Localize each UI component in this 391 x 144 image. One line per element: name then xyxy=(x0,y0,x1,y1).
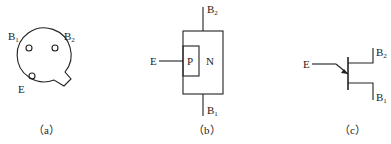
label-e: E xyxy=(303,58,310,70)
pin-b2-hole xyxy=(52,45,58,51)
b2-lead xyxy=(348,48,373,63)
figure-a-package: B1 B2 E （a） xyxy=(8,28,75,136)
figure-b-structure: E P N B2 B1 （b） xyxy=(150,3,223,136)
label-b1: B1 xyxy=(207,104,218,118)
caption-c: （c） xyxy=(339,124,366,136)
figure-c-symbol: E B2 B1 （c） xyxy=(303,46,387,136)
label-e: E xyxy=(150,55,157,67)
b1-lead xyxy=(348,83,373,100)
caption-b: （b） xyxy=(193,124,221,136)
label-b1: B1 xyxy=(376,91,387,105)
label-b1: B1 xyxy=(8,30,19,44)
label-p: P xyxy=(187,55,193,67)
caption-a: （a） xyxy=(33,124,60,136)
label-b2: B2 xyxy=(376,46,387,60)
label-b2: B2 xyxy=(64,30,75,44)
label-b2: B2 xyxy=(207,3,218,17)
label-e: E xyxy=(18,83,25,95)
pin-b1-hole xyxy=(26,45,32,51)
label-n: N xyxy=(206,55,214,67)
ujt-diagram: B1 B2 E （a） E P N B2 B1 （b） E B2 B1 （c） xyxy=(0,0,391,144)
pin-e-hole xyxy=(29,73,35,79)
